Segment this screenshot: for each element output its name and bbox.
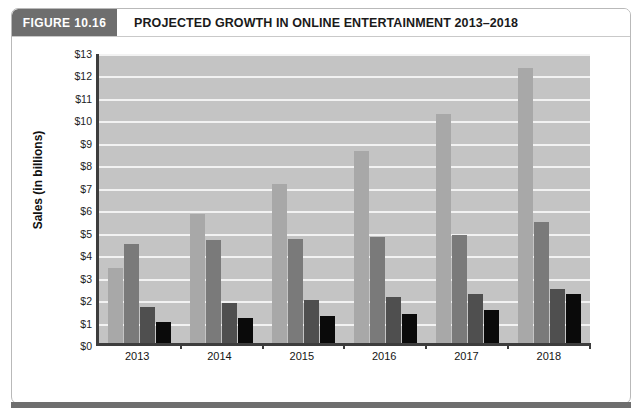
x-axis-tick-mark bbox=[425, 343, 427, 349]
bar bbox=[238, 318, 253, 343]
bar bbox=[354, 151, 369, 343]
x-axis-tick-labels: 201320142015201620172018 bbox=[96, 350, 590, 362]
x-axis-tick-mark bbox=[507, 343, 509, 349]
bar bbox=[468, 294, 483, 343]
x-axis-tick-mark bbox=[343, 343, 345, 349]
bar bbox=[386, 297, 401, 343]
bar bbox=[534, 222, 549, 343]
figure-title: PROJECTED GROWTH IN ONLINE ENTERTAINMENT… bbox=[117, 9, 631, 36]
bar bbox=[550, 289, 565, 343]
bar bbox=[108, 268, 123, 343]
bar bbox=[288, 239, 303, 343]
y-axis-tick-label: $6 bbox=[80, 205, 92, 217]
bar bbox=[320, 316, 335, 343]
bar-group-2017 bbox=[426, 54, 508, 343]
bar bbox=[304, 300, 319, 343]
y-axis-tick-label: $9 bbox=[80, 138, 92, 150]
bar bbox=[484, 310, 499, 343]
y-axis-tick-label: $2 bbox=[80, 295, 92, 307]
bar-group-2015 bbox=[263, 54, 345, 343]
x-axis-tick-mark bbox=[589, 343, 591, 349]
bar bbox=[222, 303, 237, 343]
y-axis-title: Sales (in billions) bbox=[31, 100, 45, 260]
y-axis-tick-label: $10 bbox=[74, 115, 92, 127]
figure-number-badge: FIGURE 10.16 bbox=[12, 9, 117, 36]
figure-caption bbox=[14, 411, 624, 420]
bar bbox=[124, 244, 139, 343]
x-axis-tick-label: 2015 bbox=[261, 350, 343, 362]
y-axis-tick-label: $11 bbox=[75, 93, 92, 105]
x-axis-tick-mark bbox=[180, 343, 182, 349]
y-axis-tick-label: $0 bbox=[80, 340, 92, 352]
bar-group-2014 bbox=[181, 54, 263, 343]
x-axis-tick-mark bbox=[262, 343, 264, 349]
y-axis-tick-label: $1 bbox=[80, 318, 92, 330]
figure-card: FIGURE 10.16 PROJECTED GROWTH IN ONLINE … bbox=[11, 8, 631, 404]
y-axis-tick-label: $3 bbox=[80, 273, 92, 285]
bar bbox=[402, 314, 417, 343]
x-axis-tick-label: 2017 bbox=[425, 350, 507, 362]
bar bbox=[190, 214, 205, 343]
chart-body: Sales (in billions) $0$1$2$3$4$5$6$7$8$9… bbox=[12, 37, 631, 377]
y-axis-tick-label: $8 bbox=[80, 160, 92, 172]
bar bbox=[370, 237, 385, 343]
bar bbox=[566, 294, 581, 343]
bar bbox=[518, 68, 533, 343]
bar bbox=[272, 184, 287, 343]
bar-group-2013 bbox=[99, 54, 181, 343]
figure-header: FIGURE 10.16 PROJECTED GROWTH IN ONLINE … bbox=[12, 9, 631, 37]
bar bbox=[452, 235, 467, 343]
x-axis-tick-label: 2018 bbox=[508, 350, 590, 362]
figure-footer-rule bbox=[11, 402, 631, 408]
x-axis-tick-label: 2014 bbox=[178, 350, 260, 362]
bar bbox=[436, 114, 451, 343]
y-axis-tick-label: $12 bbox=[74, 70, 92, 82]
y-axis-tick-label: $4 bbox=[80, 250, 92, 262]
y-axis-tick-label: $5 bbox=[80, 228, 92, 240]
bar bbox=[140, 307, 155, 343]
y-axis-tick-label: $13 bbox=[74, 48, 92, 60]
x-axis-tick-label: 2013 bbox=[96, 350, 178, 362]
bar bbox=[206, 240, 221, 343]
plot-area bbox=[96, 54, 590, 346]
bar bbox=[156, 322, 171, 343]
y-axis-tick-label: $7 bbox=[80, 183, 92, 195]
y-axis-tick-labels: $0$1$2$3$4$5$6$7$8$9$10$11$12$13 bbox=[62, 54, 92, 346]
bar-groups bbox=[99, 54, 590, 343]
x-axis-tick-label: 2016 bbox=[343, 350, 425, 362]
bar-group-2016 bbox=[344, 54, 426, 343]
bar-group-2018 bbox=[508, 54, 590, 343]
